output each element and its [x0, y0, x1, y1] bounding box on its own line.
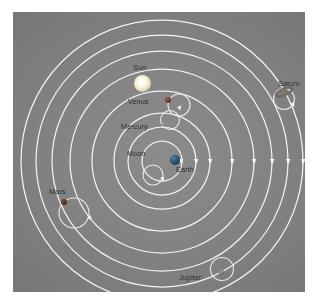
earth-body	[170, 155, 180, 165]
sky-panel: Sun Venus Mercury Moon Earth Mars Saturn…	[13, 12, 305, 292]
sun-body	[134, 75, 151, 92]
deferent-orbit-outer	[21, 20, 303, 292]
jupiter-body	[219, 270, 224, 275]
label-mars: Mars	[49, 188, 65, 195]
mars-body	[61, 199, 67, 205]
deferent-orbit-mars	[70, 69, 254, 253]
label-venus: Venus	[128, 98, 148, 105]
epicycle-moon	[143, 165, 163, 185]
epicycle-venus	[168, 94, 190, 116]
label-moon: Moon	[127, 150, 145, 157]
label-earth: Earth	[176, 166, 194, 173]
label-saturn: Saturn	[278, 80, 300, 87]
orbit-rings-svg	[13, 12, 305, 292]
label-sun: Sun	[133, 64, 146, 71]
epicycle-jupiter	[211, 258, 234, 281]
deferent-orbit-saturn	[36, 35, 288, 287]
deferent-orbits	[21, 20, 303, 292]
label-mercury: Mercury	[121, 123, 148, 130]
label-jupiter: Jupiter	[179, 274, 201, 281]
deferent-orbit-jupiter	[52, 51, 272, 271]
orbit-direction-markers	[87, 102, 305, 220]
venus-body	[165, 97, 171, 103]
deferent-orbit-mercury	[128, 127, 196, 195]
geocentric-model-diagram: Sun Venus Mercury Moon Earth Mars Saturn…	[0, 0, 314, 301]
